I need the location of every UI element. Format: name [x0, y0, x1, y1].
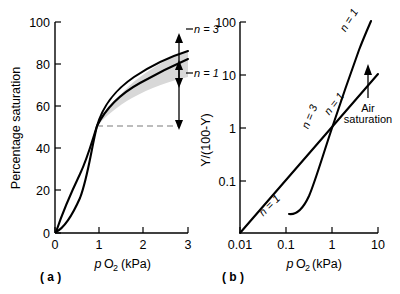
panel-b-xlabel-unit: (kPa)	[312, 257, 342, 271]
panel-b-xtick-1: 1	[329, 238, 336, 252]
panel-a-xtick-2: 2	[140, 238, 147, 252]
panel-a-ytick-100: 100	[29, 16, 50, 30]
panel-b-ytick-10: 10	[222, 69, 236, 83]
panel-b-y-ticks	[240, 22, 246, 181]
panel-b-ytick-100: 100	[215, 16, 236, 30]
panel-a-xtick-1: 1	[96, 238, 103, 252]
panel-a-xlabel-sub2: 2	[113, 263, 118, 273]
figure-container: 100 80 60 40 20 0 0 1 2 3 Percentage sat…	[0, 0, 400, 294]
panel-a-ytick-80: 80	[36, 58, 50, 72]
panel-b-label-n3: n = 3	[299, 102, 320, 130]
panel-a: 100 80 60 40 20 0 0 1 2 3 Percentage sat…	[9, 16, 220, 284]
panel-b-y-axis-label: Y/(100-Y)	[199, 113, 213, 167]
panel-a-ytick-60: 60	[36, 100, 50, 114]
panel-b-xlabel-p: p	[286, 257, 294, 271]
panel-a-ytick-0: 0	[43, 227, 50, 241]
panel-a-xlabel-unit: (kPa)	[121, 257, 151, 271]
panel-a-xtick-3: 3	[185, 238, 192, 252]
panel-b-xlabel-sub2: 2	[305, 263, 310, 273]
panel-a-xlabel-p: p	[94, 257, 102, 271]
panel-b-xtick-10: 10	[371, 238, 385, 252]
panel-b-caption: ( b )	[222, 270, 244, 284]
panel-a-y-ticks	[55, 22, 61, 233]
panel-a-x-axis-label: p O 2 (kPa)	[94, 257, 151, 273]
panel-a-ytick-40: 40	[36, 142, 50, 156]
panel-a-shaded-region	[97, 51, 188, 126]
panel-b-label-n1-lower: n = 1	[256, 192, 282, 218]
panel-a-caption: ( a )	[40, 270, 61, 284]
panel-b: 100 10 1 0.1 0.01 0.1 1 10 Y/(100-Y) p O…	[199, 6, 392, 284]
panel-b-x-ticks	[240, 227, 378, 233]
panel-b-xtick-0p01: 0.01	[228, 238, 252, 252]
panel-b-air-label-line2: saturation	[344, 113, 392, 125]
figure-svg: 100 80 60 40 20 0 0 1 2 3 Percentage sat…	[0, 0, 400, 294]
panel-a-ytick-20: 20	[36, 184, 50, 198]
svg-text:n = 1: n = 1	[194, 67, 219, 79]
panel-a-label-n1: n = 1	[186, 67, 219, 79]
panel-a-x-ticks	[55, 227, 188, 233]
panel-a-xtick-0: 0	[52, 238, 59, 252]
panel-a-y-axis-label: Percentage saturation	[9, 67, 23, 189]
panel-b-ytick-1: 1	[229, 122, 236, 136]
panel-b-x-axis-label: p O 2 (kPa)	[286, 257, 342, 273]
panel-b-ytick-0p1: 0.1	[219, 175, 236, 189]
panel-b-xtick-0p1: 0.1	[277, 238, 294, 252]
panel-b-label-n1-top: n = 1	[337, 6, 360, 33]
